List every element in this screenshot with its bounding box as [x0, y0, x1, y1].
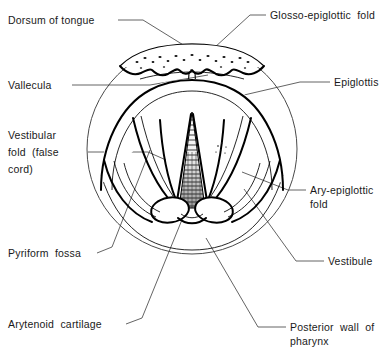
label-arytenoid-cartilage: Arytenoid cartilage: [8, 317, 102, 331]
label-vestibule: Vestibule: [328, 254, 372, 268]
laryngoscopic-view-diagram: Dorsum of tongue Vallecula Vestibular fo…: [0, 0, 390, 356]
label-vestibular-fold-line3: cord): [8, 162, 33, 176]
label-glosso-epiglottic-fold: Glosso-epiglottic fold: [270, 8, 375, 22]
label-posterior-wall-line2: pharynx: [290, 334, 329, 348]
diagram-canvas: [0, 0, 390, 356]
label-posterior-wall-line1: Posterior wall of: [290, 320, 374, 334]
label-vestibular-fold-line2: fold (false: [8, 145, 59, 159]
leader-posterior-wall-of-pharynx: [206, 238, 286, 327]
label-pyriform-fossa: Pyriform fossa: [8, 246, 81, 260]
label-vestibular-fold-line1: Vestibular: [8, 128, 56, 142]
label-ary-epiglottic-fold-line1: Ary-epiglottic: [310, 183, 374, 197]
label-dorsum-of-tongue: Dorsum of tongue: [8, 13, 95, 27]
label-vallecula: Vallecula: [8, 78, 52, 92]
label-epiglottis: Epiglottis: [334, 75, 379, 89]
dorsum-of-tongue: [120, 44, 264, 75]
label-ary-epiglottic-fold-line2: fold: [310, 197, 328, 211]
